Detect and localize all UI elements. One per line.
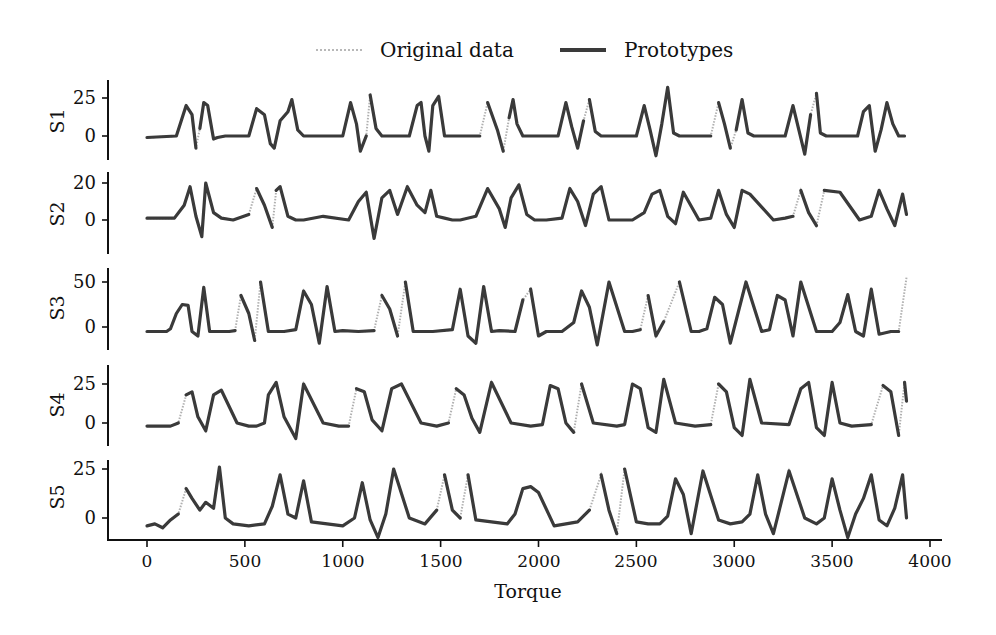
prototype-line-s1 bbox=[488, 103, 504, 152]
xtick-500: 500 bbox=[215, 551, 275, 571]
legend-item-original: Original data bbox=[316, 38, 514, 62]
prototype-line-s5 bbox=[445, 475, 461, 518]
xtick-0: 0 bbox=[117, 551, 177, 571]
legend-item-prototypes: Prototypes bbox=[560, 38, 733, 62]
prototype-line-s5 bbox=[147, 514, 178, 528]
prototype-line-s4 bbox=[719, 379, 872, 435]
prototype-line-s1 bbox=[589, 87, 710, 155]
ytick-s1-top: 25 bbox=[56, 87, 96, 108]
ytick-s3-zero: 0 bbox=[56, 316, 96, 337]
ytick-s2-top: 20 bbox=[56, 172, 96, 193]
prototype-line-s3 bbox=[531, 282, 641, 345]
ytick-s4-top: 25 bbox=[56, 373, 96, 394]
ytick-s1-zero: 0 bbox=[56, 125, 96, 146]
prototype-line-s5 bbox=[186, 467, 437, 538]
prototype-line-s5 bbox=[601, 475, 617, 534]
prototype-line-s2 bbox=[257, 189, 273, 228]
ytick-s3-top: 50 bbox=[56, 271, 96, 292]
prototype-line-s3 bbox=[147, 287, 235, 336]
prototype-line-s4 bbox=[456, 382, 573, 432]
legend: Original data Prototypes bbox=[0, 38, 996, 66]
original-data-line-s1 bbox=[147, 87, 905, 155]
prototype-line-s3 bbox=[382, 296, 398, 337]
prototype-line-s1 bbox=[509, 100, 583, 149]
prototype-line-s1 bbox=[816, 93, 904, 151]
legend-label-prototypes: Prototypes bbox=[624, 38, 733, 62]
ytick-s5-top: 25 bbox=[56, 458, 96, 479]
prototype-line-s4 bbox=[905, 382, 907, 401]
ytick-s5-zero: 0 bbox=[56, 507, 96, 528]
prototype-line-s3 bbox=[405, 282, 522, 343]
xtick-2500: 2500 bbox=[606, 551, 666, 571]
prototype-line-s5 bbox=[468, 475, 589, 526]
prototype-line-s4 bbox=[147, 423, 178, 426]
prototype-line-s5 bbox=[625, 469, 907, 538]
xtick-3000: 3000 bbox=[704, 551, 764, 571]
xtick-1500: 1500 bbox=[411, 551, 471, 571]
xtick-1000: 1000 bbox=[313, 551, 373, 571]
xtick-4000: 4000 bbox=[900, 551, 960, 571]
prototype-line-s1 bbox=[147, 106, 196, 149]
prototype-line-s1 bbox=[200, 100, 366, 152]
xtick-2000: 2000 bbox=[509, 551, 569, 571]
prototype-line-s1 bbox=[719, 103, 731, 149]
dotted-line-swatch-icon bbox=[316, 49, 362, 51]
ytick-s2-zero: 0 bbox=[56, 209, 96, 230]
prototype-line-s2 bbox=[147, 183, 249, 237]
prototype-line-s2 bbox=[801, 190, 817, 225]
xtick-3500: 3500 bbox=[802, 551, 862, 571]
prototype-line-s1 bbox=[736, 100, 810, 155]
prototype-line-s3 bbox=[648, 296, 664, 337]
prototype-line-s4 bbox=[582, 379, 711, 432]
prototype-line-s3 bbox=[679, 282, 898, 343]
x-axis-label: Torque bbox=[0, 580, 996, 602]
chart-figure: Original data Prototypes S1 S2 S3 S4 S5 … bbox=[0, 0, 996, 635]
plot-area bbox=[0, 0, 996, 635]
prototype-line-s2 bbox=[276, 185, 793, 239]
prototype-line-s4 bbox=[186, 382, 348, 438]
prototype-line-s4 bbox=[883, 386, 899, 436]
solid-line-swatch-icon bbox=[560, 48, 606, 52]
prototype-line-s2 bbox=[824, 190, 906, 225]
prototype-line-s3 bbox=[261, 282, 375, 343]
prototype-line-s4 bbox=[356, 384, 448, 431]
legend-label-original: Original data bbox=[380, 38, 514, 62]
prototype-line-s1 bbox=[370, 95, 480, 151]
ytick-s4-zero: 0 bbox=[56, 412, 96, 433]
prototype-line-s3 bbox=[241, 296, 255, 341]
